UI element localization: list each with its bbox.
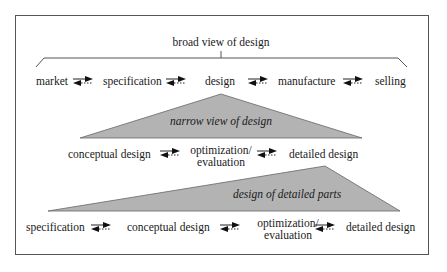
iteration-arrow-icon: [91, 222, 111, 232]
row2-conceptual-design: conceptual design: [68, 148, 151, 160]
detailed-parts-triangle: [48, 166, 400, 211]
narrow-view-label: narrow view of design: [170, 115, 272, 127]
row3-specification: specification: [26, 221, 85, 233]
row3-detailed-design: detailed design: [346, 221, 415, 233]
broad-view-title: broad view of design: [173, 36, 270, 48]
iteration-arrow-icon: [257, 148, 277, 158]
detailed-parts-label: design of detailed parts: [233, 188, 341, 200]
iteration-arrow-icon: [73, 76, 93, 86]
iteration-arrow-icon: [248, 76, 268, 86]
iteration-arrow-icon: [343, 76, 363, 86]
iteration-arrow-icon: [160, 148, 180, 158]
row3-conceptual-design: conceptual design: [127, 221, 210, 233]
row1-market: market: [36, 75, 68, 87]
row2-detailed-design: detailed design: [289, 148, 358, 160]
broad-view-bracket: [36, 51, 407, 67]
iteration-arrow-icon: [220, 222, 240, 232]
row2-optimization: optimization/: [190, 144, 251, 156]
row3-evaluation: evaluation: [264, 229, 312, 241]
row3-optimization: optimization/: [257, 217, 318, 229]
row1-specification: specification: [103, 75, 162, 87]
row1-selling: selling: [375, 75, 406, 87]
row1-manufacture: manufacture: [278, 75, 335, 87]
iteration-arrow-icon: [166, 76, 186, 86]
row1-design: design: [205, 75, 235, 87]
row2-evaluation: evaluation: [197, 156, 245, 168]
